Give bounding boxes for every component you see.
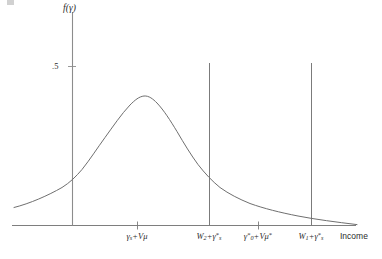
x-tick-label-gamma-star-0-plus-v-mu-star: γ*0+Vμ*: [244, 231, 272, 241]
x-axis-label: Income: [340, 231, 368, 241]
x-tick-label-gamma-s-plus-v-mu: γs+Vμ: [126, 231, 147, 241]
x-tick-label-w2-plus-gamma-star: W2+γ*s: [196, 231, 221, 241]
tick4-term-sub: s: [321, 234, 323, 241]
figure-container: f(γ) .5 γs+Vμ W2+γ*s γ*0+Vμ* W1+γ*s Inco…: [0, 0, 382, 259]
tick2-term-sub: s: [219, 234, 221, 241]
y-tick-label-point-five: .5: [52, 61, 58, 71]
plot-canvas: [0, 0, 382, 259]
tick3-term-sup: *: [269, 231, 272, 238]
y-axis-label: f(γ): [63, 3, 76, 13]
density-curve: [14, 96, 357, 225]
x-tick-label-w1-plus-gamma-star: W1+γ*s: [298, 231, 323, 241]
tick3-term: Vμ: [259, 231, 268, 241]
tick1-term: Vμ: [138, 231, 147, 241]
